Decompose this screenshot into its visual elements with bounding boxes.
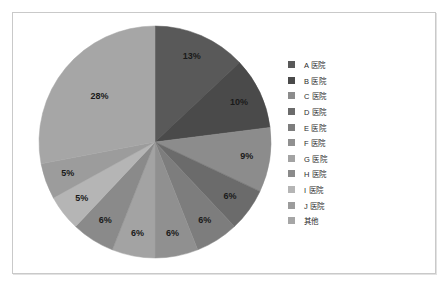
legend-item-label: D 医院 [304,106,326,117]
legend-item[interactable]: I 医院 [288,182,408,198]
legend-swatch-icon [288,108,295,115]
chart-canvas: 13%10%9%6%6%6%6%6%5%5%28% A 医院B 医院C 医院D … [0,0,448,286]
legend-swatch-icon [288,155,295,162]
legend-swatch-icon [288,170,295,177]
pie-data-label: 10% [230,97,248,107]
pie-data-label: 5% [61,168,74,178]
pie-data-label: 5% [75,193,88,203]
legend-swatch-icon [288,186,295,193]
legend-item[interactable]: E 医院 [288,119,408,135]
pie-data-label: 6% [198,215,211,225]
legend-swatch-icon [288,139,295,146]
pie-data-label: 6% [99,215,112,225]
pie-data-label: 6% [224,191,237,201]
legend-item-label: E 医院 [304,122,326,133]
pie-slice-group [39,26,271,258]
legend-item-label: F 医院 [304,137,325,148]
legend-swatch-icon [288,77,295,84]
legend-swatch-icon [288,202,295,209]
pie-chart: 13%10%9%6%6%6%6%6%5%5%28% [38,25,272,259]
legend-item[interactable]: C 医院 [288,88,408,104]
legend-item[interactable]: 其他 [288,213,408,229]
legend-item-label: 其他 [304,215,318,226]
pie-chart-svg: 13%10%9%6%6%6%6%6%5%5%28% [38,25,272,259]
pie-data-label: 6% [166,228,179,238]
legend-item-label: C 医院 [304,90,326,101]
legend-swatch-icon [288,217,295,224]
legend-item[interactable]: H 医院 [288,166,408,182]
legend-item[interactable]: J 医院 [288,197,408,213]
legend-item-label: B 医院 [304,75,326,86]
legend-item-label: G 医院 [304,153,327,164]
pie-data-label: 9% [240,151,253,161]
legend-swatch-icon [288,124,295,131]
legend-item-label: H 医院 [304,168,326,179]
pie-data-label: 13% [183,51,201,61]
legend-swatch-icon [288,61,295,68]
legend-item-label: I 医院 [304,184,323,195]
legend-item-label: A 医院 [304,59,325,70]
legend-item[interactable]: D 医院 [288,104,408,120]
legend-item[interactable]: G 医院 [288,151,408,167]
pie-data-label: 28% [91,91,109,101]
pie-data-label: 6% [131,228,144,238]
chart-legend: A 医院B 医院C 医院D 医院E 医院F 医院G 医院H 医院I 医院J 医院… [288,57,408,229]
legend-item[interactable]: B 医院 [288,73,408,89]
legend-swatch-icon [288,92,295,99]
legend-item-label: J 医院 [304,200,325,211]
legend-item[interactable]: F 医院 [288,135,408,151]
legend-item[interactable]: A 医院 [288,57,408,73]
